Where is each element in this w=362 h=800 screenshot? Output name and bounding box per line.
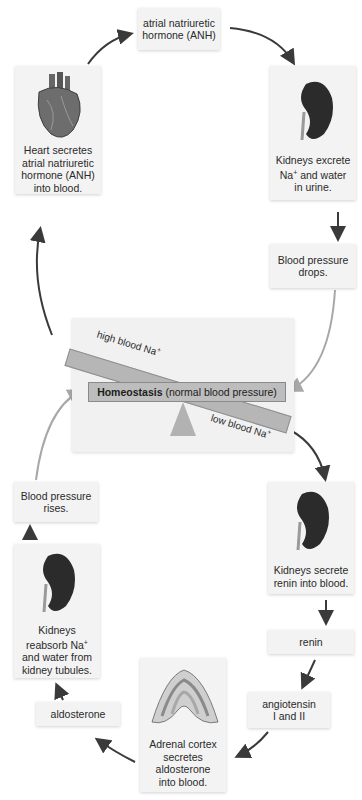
kidney-excrete-line3: in urine. (294, 181, 331, 193)
angiotensin-line2: I and II (273, 710, 305, 722)
heart-line4: into blood. (34, 182, 82, 194)
kidney-icon (294, 78, 336, 144)
arrow-anh-to-kidney (230, 28, 293, 62)
arrow-adrenal-to-aldosterone (98, 740, 135, 762)
homeostasis-bar: Homeostasis (normal blood pressure) (88, 382, 286, 402)
angiotensin-line1: angiotensin (262, 698, 316, 710)
arrow-highna-to-heart (37, 230, 52, 335)
fulcrum-icon (170, 402, 196, 436)
kidney-excrete-line1: Kidneys excrete (276, 154, 351, 166)
renin-box: renin (268, 630, 354, 654)
arrow-renin-to-angiotensin (303, 660, 315, 686)
bp-drops-line1: Blood pressure (278, 254, 349, 266)
kidney-renin-box: Kidneys secrete renin into blood. (268, 482, 354, 594)
kidney-icon (290, 488, 332, 554)
kidney-reabsorb-box: Kidneys reabsorb Na+ and water from kidn… (14, 544, 100, 678)
aldosterone-label: aldosterone (51, 708, 106, 721)
kidney-reabsorb-line1: Kidneys (38, 624, 75, 636)
adrenal-line1: Adrenal cortex (149, 738, 217, 750)
anh-box: atrial natriuretichormone (ANH) (138, 8, 220, 50)
arrow-aldosterone-to-kidney (57, 686, 63, 700)
kidney-renin-line1: Kidneys secrete (274, 564, 349, 576)
kidney-excrete-line2-rest: and water (297, 169, 346, 181)
adrenal-line2: secretes (163, 751, 203, 763)
kidney-renin-line2: renin into blood. (274, 577, 349, 589)
kidney-icon (36, 550, 78, 616)
bp-rises-box: Blood pressurerises. (14, 482, 98, 522)
homeostasis-rest: (normal blood pressure) (162, 386, 276, 398)
kidney-reabsorb-line4: kidney tubules. (22, 664, 92, 676)
adrenal-line3: aldosterone (156, 763, 211, 775)
homeostasis-bold: Homeostasis (97, 386, 162, 398)
kidney-excrete-box: Kidneys excrete Na+ and water in urine. (270, 66, 356, 200)
arrow-heart-to-anh (88, 34, 130, 64)
arrow-angiotensin-to-adrenal (238, 732, 268, 756)
adrenal-gland-icon (146, 666, 222, 730)
angiotensin-box: angiotensinI and II (248, 692, 330, 728)
bp-drops-box: Blood pressuredrops. (270, 244, 356, 288)
kidney-excrete-na: Na (280, 169, 293, 181)
bp-rises-line1: Blood pressure (21, 490, 92, 502)
bp-rises-line2: rises. (43, 502, 68, 514)
heart-icon (31, 72, 85, 142)
aldosterone-box: aldosterone (36, 702, 120, 726)
arrow-lowna-to-kidney-renin (290, 430, 325, 478)
adrenal-box: Adrenal cortex secretes aldosterone into… (140, 658, 226, 792)
kidney-reabsorb-line3: and water from (22, 651, 92, 663)
kidney-reabsorb-line2: reabsorb Na (26, 639, 84, 651)
anh-line2: hormone (ANH) (142, 29, 216, 41)
renin-label: renin (299, 636, 322, 649)
heart-box: Heart secretes atrial natriuretic hormon… (15, 66, 101, 194)
anh-line1: atrial natriuretic (143, 17, 215, 29)
heart-line2: atrial natriuretic (22, 157, 94, 169)
heart-line1: Heart secretes (24, 144, 92, 156)
arrow-bpdrops-to-homeostasis (290, 290, 335, 390)
kidney-reabsorb-sup: + (84, 639, 88, 646)
heart-line3: hormone (ANH) (21, 169, 95, 181)
bp-drops-line2: drops. (298, 266, 327, 278)
adrenal-line4: into blood. (159, 776, 207, 788)
